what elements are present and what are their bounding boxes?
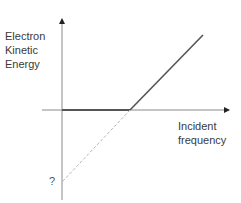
y-axis-label-line: Energy — [5, 57, 45, 71]
x-axis-label-line: frequency — [178, 133, 226, 147]
y-axis-label: Electron Kinetic Energy — [5, 29, 45, 71]
x-axis-label-line: Incident — [178, 119, 226, 133]
extrapolation-dashed-line — [62, 110, 130, 182]
y-axis-label-line: Electron — [5, 29, 45, 43]
y-axis-label-line: Kinetic — [5, 43, 45, 57]
x-axis-label: Incident frequency — [178, 119, 226, 147]
kinetic-energy-line — [130, 35, 203, 110]
intercept-question-mark: ? — [49, 175, 55, 187]
